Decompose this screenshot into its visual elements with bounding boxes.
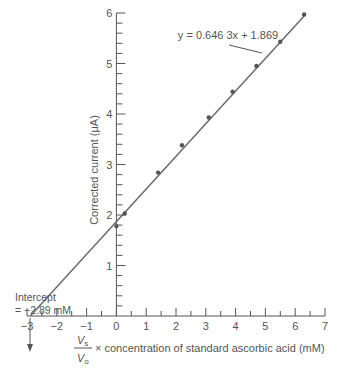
x-tick-label: 0 — [113, 320, 119, 332]
data-point — [278, 40, 282, 44]
x-axis-label-fraction: VsVo× concentration of standard ascorbic… — [74, 334, 325, 366]
x-tick-label: 5 — [262, 320, 268, 332]
x-tick-label: −3 — [21, 320, 34, 332]
y-tick-label: 3 — [106, 159, 112, 171]
x-tick-label: −1 — [80, 320, 93, 332]
x-tick-labels: −3−2−101234567 — [21, 320, 328, 332]
y-tick-label: 6 — [106, 7, 112, 19]
equation-label: y = 0.646 3x + 1.869 — [178, 29, 278, 41]
x-tick-label: 2 — [173, 320, 179, 332]
x-tick-label: 6 — [292, 320, 298, 332]
x-tick-label: 1 — [143, 320, 149, 332]
intercept-label: Intercept = −2.89 mM — [15, 291, 71, 316]
y-axis-label: Corrected current (μA) — [88, 115, 100, 225]
y-tick-label: 4 — [106, 108, 112, 120]
intercept-label-title: Intercept — [15, 291, 56, 303]
equation-text: y = 0.646 3x + 1.869 — [178, 29, 278, 41]
fraction-denominator: Vo — [77, 352, 89, 366]
fraction-numerator: Vs — [77, 334, 88, 348]
x-tick-label: 4 — [233, 320, 239, 332]
data-point — [180, 143, 184, 147]
equation-leader-line — [229, 45, 262, 53]
x-tick-label: −2 — [51, 320, 64, 332]
y-tick-label: 2 — [106, 209, 112, 221]
intercept-label-value: = −2.89 mM — [15, 304, 71, 316]
data-point — [302, 12, 306, 16]
regression-line — [30, 16, 304, 316]
data-point — [230, 90, 234, 94]
x-tick-label: 3 — [203, 320, 209, 332]
calibration-chart: −3−2−101234567 123456 y = 0.646 3x + 1.8… — [0, 0, 342, 378]
data-point — [207, 115, 211, 119]
y-tick-label: 1 — [106, 260, 112, 272]
x-axis-label-text: × concentration of standard ascorbic aci… — [95, 342, 325, 354]
x-tick-label: 7 — [322, 320, 328, 332]
data-point — [114, 224, 118, 228]
y-tick-label: 5 — [106, 58, 112, 70]
data-point — [254, 64, 258, 68]
data-point — [156, 170, 160, 174]
data-point — [123, 211, 127, 215]
